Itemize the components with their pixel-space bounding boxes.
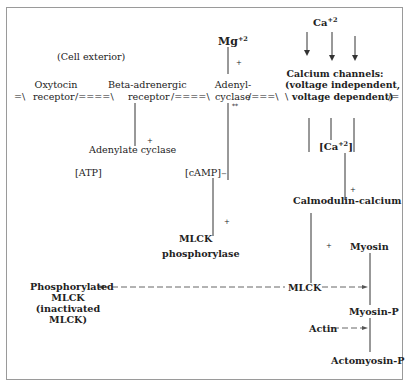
mlck-phosphorylase-label-1: MLCK xyxy=(179,233,212,244)
mg-label: Mg+2 xyxy=(218,36,248,47)
mlck-phosphorylase-label-2: phosphorylase xyxy=(162,248,240,259)
mlck-label: MLCK xyxy=(288,282,321,293)
beta-receptor-label-2: receptor xyxy=(128,91,170,102)
calcium-channels-label-3: voltage dependent) xyxy=(292,91,393,102)
atp-label: [ATP] xyxy=(75,167,102,178)
adenylate-cyclase-label: Adenylate cyclase xyxy=(89,144,176,155)
oxytocin-receptor-label-2: receptor xyxy=(33,91,75,102)
camp-label: [cAMP]− xyxy=(185,167,227,180)
cell-exterior-label: (Cell exterior) xyxy=(57,51,125,62)
actin-label: Actin xyxy=(309,323,337,334)
ca-internal-label: [Ca+2] xyxy=(319,141,353,152)
membrane-mid1: /====\ xyxy=(75,91,114,102)
mg-plus-sign: + xyxy=(236,58,242,69)
phosphorylated-mlck-label-4: MLCK) xyxy=(30,314,106,325)
camp-plus-sign: + xyxy=(224,217,230,228)
actomyosin-p-label: Actomyosin-P xyxy=(331,355,404,366)
membrane-mid3: /===\ xyxy=(248,91,279,102)
myosin-p-label: Myosin-P xyxy=(349,306,399,317)
membrane-right: /= xyxy=(388,91,399,102)
membrane-backslash: \ xyxy=(285,91,288,102)
double-star: ** xyxy=(232,100,238,111)
membrane-left: =\ xyxy=(14,91,25,102)
membrane-mid2: /====\ xyxy=(171,91,210,102)
phosphorylated-mlck-label-3: (inactivated xyxy=(30,303,106,314)
oxytocin-receptor-label-1: Oxytocin xyxy=(30,79,82,90)
calmodulin-calcium-label: Calmodulin-calcium xyxy=(293,195,401,206)
myosin-label: Myosin xyxy=(350,241,389,252)
calmodulin-plus-sign: + xyxy=(326,241,332,252)
phosphorylated-mlck-label-1: Phosphorylated xyxy=(30,281,106,292)
calcium-channels-label-2: (voltage independent, xyxy=(285,79,385,90)
beta-receptor-label-1: Beta-adrenergic xyxy=(108,79,168,90)
phosphorylated-mlck-label-2: MLCK xyxy=(30,292,106,303)
adenyl-cyclase-label-1: Adenyl- xyxy=(210,79,256,90)
calcium-channels-label-1: Calcium channels: xyxy=(285,68,385,79)
ca-top-label: Ca+2 xyxy=(313,17,337,28)
